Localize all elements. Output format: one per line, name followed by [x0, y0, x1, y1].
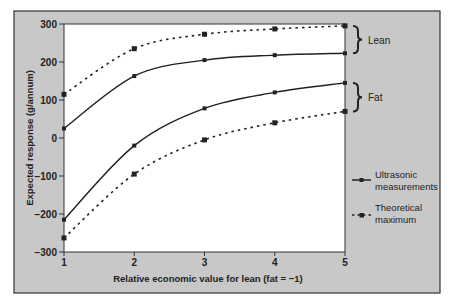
x-tick-label: 1 [61, 257, 67, 268]
y-tick-label: 100 [40, 95, 57, 106]
data-point [62, 235, 67, 240]
data-point [132, 144, 136, 148]
data-point [132, 172, 137, 177]
y-tick-label: −300 [34, 247, 57, 258]
y-tick-label: −100 [34, 171, 57, 182]
legend-solid-marker-icon [360, 178, 364, 182]
legend-label-theoretical-line2: maximum [375, 214, 416, 225]
data-point [343, 109, 348, 114]
data-point [273, 90, 277, 94]
brace-label: Lean [368, 35, 390, 46]
data-point [132, 46, 137, 51]
data-point [203, 106, 207, 110]
data-point [202, 32, 207, 37]
data-point [62, 127, 66, 131]
brace-label: Fat [368, 92, 383, 103]
y-tick-label: 200 [40, 57, 57, 68]
y-tick-label: 0 [51, 133, 57, 144]
x-tick-label: 2 [131, 257, 137, 268]
data-point [62, 218, 66, 222]
data-point [272, 120, 277, 125]
x-tick-label: 5 [342, 257, 348, 268]
x-tick-label: 4 [272, 257, 278, 268]
data-point [132, 74, 136, 78]
y-tick-label: −200 [34, 209, 57, 220]
legend-label-ultrasonic-line1: Ultrasonic [375, 169, 417, 180]
y-tick-label: 300 [40, 19, 57, 30]
data-point [62, 92, 67, 97]
legend-label-ultrasonic-line2: measurements [375, 181, 438, 192]
data-point [202, 137, 207, 142]
data-point [343, 81, 347, 85]
data-point [343, 51, 347, 55]
data-point [273, 53, 277, 57]
chart: 3002001000−100−200−300 12345 LeanFat Rel… [0, 0, 453, 304]
legend-dotted-marker-icon [360, 213, 365, 218]
x-tick-label: 3 [202, 257, 208, 268]
x-axis-title: Relative economic value for lean (fat = … [113, 273, 303, 284]
y-axis-title: Expected response (g/annum) [24, 70, 35, 206]
data-point [203, 58, 207, 62]
data-point [272, 26, 277, 31]
data-point [343, 23, 348, 28]
legend-label-theoretical-line1: Theoretical [375, 202, 422, 213]
